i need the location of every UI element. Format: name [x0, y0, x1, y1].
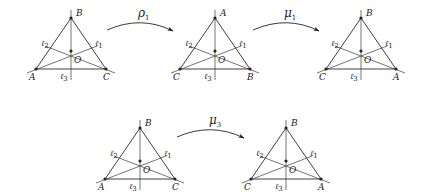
triangle-4: B A C O ℓ2 ℓ1 ℓ3	[96, 118, 184, 193]
center-label: O	[364, 55, 372, 65]
vertex-right-label: C	[172, 182, 179, 192]
center-dot	[69, 49, 72, 52]
line-label-l1: ℓ1	[95, 39, 103, 50]
vertex-right-label: B	[246, 72, 254, 82]
vertex-right-label: C	[103, 72, 110, 82]
arrow-label: μ1	[284, 6, 296, 22]
vertex-top-label: B	[365, 8, 373, 18]
vertex-left-label: A	[28, 72, 36, 82]
vertex-left-label: C	[173, 72, 180, 82]
vertex-dot	[103, 177, 106, 180]
line-label-l3: ℓ3	[350, 72, 358, 83]
arrow-mu3: μ3	[177, 113, 244, 138]
center-label: O	[289, 165, 297, 175]
curved-arrow	[107, 23, 173, 31]
vertex-right-label: A	[392, 72, 400, 82]
line-label-l3: ℓ3	[60, 72, 68, 83]
line-label-l3: ℓ3	[204, 72, 212, 83]
center-dot	[138, 159, 141, 162]
symmetry-diagram: B A C O ℓ2 ℓ1 ℓ3 A C B O ℓ2 ℓ1 ℓ3 B C	[0, 0, 428, 195]
line-label-l3: ℓ3	[129, 182, 137, 193]
vertex-dot	[34, 67, 37, 70]
vertex-dot	[69, 16, 72, 19]
vertex-left-label: A	[97, 182, 105, 192]
curved-arrow	[253, 23, 319, 31]
center-dot	[213, 49, 216, 52]
center-label: O	[143, 165, 151, 175]
vertex-right-label: A	[317, 182, 325, 192]
arrow-rho1: ρ1	[107, 6, 173, 31]
center-label: O	[218, 55, 226, 65]
center-dot	[284, 159, 287, 162]
vertex-top-label: A	[219, 8, 227, 18]
vertex-dot	[319, 177, 322, 180]
vertex-dot	[324, 67, 327, 70]
line-label-l2: ℓ2	[256, 149, 264, 160]
center-label: O	[74, 55, 82, 65]
arrow-mu1: μ1	[253, 6, 319, 31]
vertex-top-label: B	[290, 118, 298, 128]
vertex-dot	[173, 177, 176, 180]
arrow-label: μ3	[209, 113, 221, 129]
vertex-dot	[249, 177, 252, 180]
line-label-l1: ℓ1	[385, 39, 393, 50]
line-label-l2: ℓ2	[41, 39, 49, 50]
vertex-dot	[138, 126, 141, 129]
vertex-dot	[178, 67, 181, 70]
vertex-top-label: B	[75, 8, 83, 18]
vertex-dot	[248, 67, 251, 70]
vertex-dot	[104, 67, 107, 70]
line-label-l3: ℓ3	[275, 182, 283, 193]
line-label-l2: ℓ2	[185, 39, 193, 50]
triangle-3: B C A O ℓ2 ℓ1 ℓ3	[317, 8, 405, 83]
line-label-l2: ℓ2	[110, 149, 118, 160]
arrow-label: ρ1	[137, 6, 150, 22]
curved-arrow	[177, 130, 244, 138]
line-label-l1: ℓ1	[310, 149, 318, 160]
line-label-l1: ℓ1	[239, 39, 247, 50]
line-label-l1: ℓ1	[164, 149, 172, 160]
triangle-1: B A C O ℓ2 ℓ1 ℓ3	[27, 8, 115, 83]
vertex-left-label: C	[319, 72, 326, 82]
vertex-dot	[359, 16, 362, 19]
center-dot	[359, 49, 362, 52]
vertex-dot	[284, 126, 287, 129]
line-label-l2: ℓ2	[331, 39, 339, 50]
vertex-left-label: C	[244, 182, 251, 192]
triangle-2: A C B O ℓ2 ℓ1 ℓ3	[171, 8, 259, 83]
triangle-5: B C A O ℓ2 ℓ1 ℓ3	[242, 118, 330, 193]
vertex-dot	[394, 67, 397, 70]
vertex-top-label: B	[144, 118, 152, 128]
vertex-dot	[213, 16, 216, 19]
